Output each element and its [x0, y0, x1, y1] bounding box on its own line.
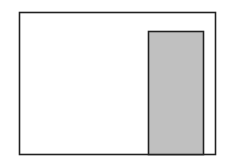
- diagram-canvas: [0, 0, 230, 161]
- inner-shaded-rectangle: [149, 32, 204, 155]
